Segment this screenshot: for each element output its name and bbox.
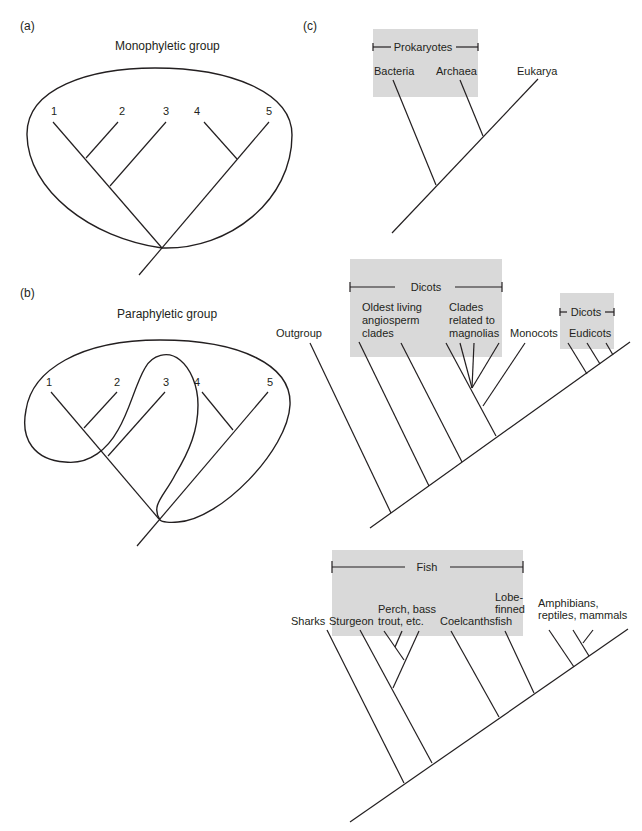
perch-line-2: trout, etc.	[378, 615, 424, 627]
lobe-line-3: fish	[495, 615, 512, 627]
tree-domains: Prokaryotes Bacteria Archaea Eukarya	[373, 29, 558, 233]
magnolias-line-3: magnolias	[449, 327, 500, 339]
panel-a-monophyletic: (a) Monophyletic group 1 2 3 4 5	[20, 19, 292, 275]
taxon-outgroup: Outgroup	[276, 327, 322, 339]
taxon-1: 1	[51, 105, 57, 117]
lobe-line-2: finned	[495, 603, 525, 615]
magnolias-line-1: Clades	[449, 301, 484, 313]
tree-angiosperms: Dicots Dicots Outgroup Oldest living ang…	[276, 259, 630, 528]
oldest-line-1: Oldest living	[362, 301, 422, 313]
panel-b-title: Paraphyletic group	[117, 307, 217, 321]
taxon-5: 5	[267, 376, 273, 388]
paraphyletic-outline	[25, 340, 290, 522]
oldest-line-3: clades	[362, 327, 394, 339]
eudicots-highlight	[560, 293, 614, 349]
taxon-2: 2	[119, 105, 125, 117]
panel-a-letter: (a)	[20, 19, 35, 33]
taxon-4: 4	[194, 105, 200, 117]
dicots-small-bracket-label: Dicots	[571, 306, 602, 318]
monophyletic-outline	[27, 68, 292, 248]
taxon-3: 3	[163, 376, 169, 388]
magnolias-line-2: related to	[449, 314, 495, 326]
taxon-3: 3	[163, 105, 169, 117]
taxon-1: 1	[46, 376, 52, 388]
taxon-eukarya: Eukarya	[517, 65, 558, 77]
lobe-line-1: Lobe-	[495, 591, 523, 603]
panel-a-title: Monophyletic group	[115, 39, 220, 53]
oldest-line-2: angiosperm	[362, 314, 419, 326]
dicots-bracket-label: Dicots	[411, 281, 442, 293]
tree-vertebrates: Fish Sharks Sturgeon Perch, bass trout, …	[291, 550, 628, 822]
phylogeny-figure: (a) Monophyletic group 1 2 3 4 5 (b) Par…	[0, 0, 642, 831]
taxon-4: 4	[194, 376, 200, 388]
panel-b-letter: (b)	[20, 286, 35, 300]
taxon-sharks: Sharks	[291, 615, 326, 627]
fish-bracket-label: Fish	[417, 561, 438, 573]
taxon-archaea: Archaea	[436, 65, 478, 77]
taxon-coelacanths: Coelcanths	[440, 615, 496, 627]
taxon-2: 2	[114, 376, 120, 388]
panel-c-letter: (c)	[303, 19, 317, 33]
taxon-monocots: Monocots	[510, 327, 558, 339]
prokaryotes-bracket-label: Prokaryotes	[394, 41, 453, 53]
taxon-bacteria: Bacteria	[374, 65, 415, 77]
tetrapods-line-1: Amphibians,	[538, 597, 599, 609]
perch-line-1: Perch, bass	[378, 603, 437, 615]
tetrapods-line-2: reptiles, mammals	[538, 609, 628, 621]
taxon-eudicots: Eudicots	[569, 327, 612, 339]
taxon-5: 5	[266, 105, 272, 117]
taxon-sturgeon: Sturgeon	[329, 615, 374, 627]
panel-b-paraphyletic: (b) Paraphyletic group 1 2 3 4 5	[20, 286, 290, 546]
